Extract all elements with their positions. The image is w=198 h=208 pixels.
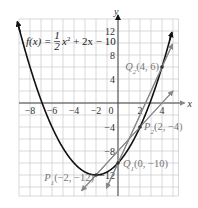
point-marker [138, 125, 142, 129]
x-axis-label: x [187, 98, 193, 109]
function-graph: xy −8−6−4−20241284−4−8−12 P1(−2, −12)P2(… [0, 0, 198, 208]
x-tick-label: 4 [160, 105, 165, 116]
point-label: P2(2, −4) [143, 121, 183, 136]
function-label-rest: x2 + 2x − 10 [61, 35, 116, 47]
y-tick-label: 8 [110, 50, 115, 61]
x-tick-label: −2 [91, 105, 102, 116]
point-marker [116, 161, 120, 165]
y-tick-label: −8 [104, 146, 115, 157]
svg-text:2: 2 [54, 40, 60, 52]
y-tick-label: −4 [104, 122, 115, 133]
y-tick-label: 4 [110, 74, 115, 85]
x-tick-label: −4 [69, 105, 80, 116]
point-label: Q2(4, 6) [125, 61, 159, 76]
point-marker [160, 65, 164, 69]
y-axis-label: y [113, 6, 119, 17]
x-tick-label: −8 [25, 105, 36, 116]
function-label: f(x) = [26, 35, 51, 48]
point-marker [94, 173, 98, 177]
x-tick-label: 0 [109, 105, 114, 116]
x-tick-label: −6 [47, 105, 58, 116]
